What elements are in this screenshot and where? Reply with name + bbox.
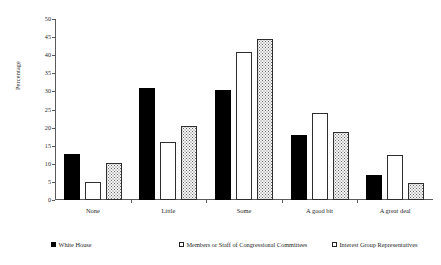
bar [181, 126, 197, 200]
bar-chart-figure: Percentage 05101520253035404550 NoneLitt… [0, 0, 441, 265]
y-tick-mark [52, 19, 55, 20]
x-category-label: A great deal [355, 207, 435, 214]
legend-item[interactable]: White House [51, 241, 92, 248]
legend-item[interactable]: Interest Group Representatives [332, 241, 418, 248]
bar [85, 182, 101, 200]
y-tick-mark [52, 200, 55, 201]
x-category-label: Little [128, 207, 208, 214]
y-tick-mark [52, 182, 55, 183]
x-category-label: A good bit [280, 207, 360, 214]
y-tick-mark [52, 73, 55, 74]
bar [291, 135, 307, 200]
bar-group [215, 19, 273, 200]
legend-label: Interest Group Representatives [340, 241, 418, 248]
bar-group [64, 19, 122, 200]
legend-item[interactable]: Members or Staff of Congressional Commit… [179, 241, 307, 248]
bar [257, 39, 273, 200]
y-tick-label: 10 [33, 161, 51, 167]
bar [160, 142, 176, 200]
chart-legend: White HouseMembers or Staff of Congressi… [51, 241, 437, 255]
bar-group [366, 19, 424, 200]
y-tick-label: 0 [33, 197, 51, 203]
legend-swatch-icon [332, 242, 337, 247]
x-category-label: Some [204, 207, 284, 214]
plot-area: 05101520253035404550 [55, 19, 433, 200]
y-axis-label: Percentage [14, 41, 21, 111]
bar-group [139, 19, 197, 200]
y-tick-mark [52, 91, 55, 92]
bar [106, 163, 122, 200]
y-tick-mark [52, 110, 55, 111]
y-tick-label: 35 [33, 70, 51, 76]
y-tick-label: 5 [33, 179, 51, 185]
bar [366, 175, 382, 200]
y-tick-mark [52, 164, 55, 165]
bar [139, 88, 155, 200]
bar [387, 155, 403, 200]
y-tick-mark [52, 37, 55, 38]
bar [215, 90, 231, 200]
x-category-label: None [53, 207, 133, 214]
bar [408, 183, 424, 200]
bar [236, 52, 252, 200]
y-tick-label: 30 [33, 88, 51, 94]
x-tick-mark [357, 200, 358, 203]
y-tick-label: 45 [33, 34, 51, 40]
y-tick-label: 20 [33, 124, 51, 130]
legend-label: Members or Staff of Congressional Commit… [187, 241, 308, 248]
legend-swatch-icon [51, 242, 56, 247]
y-tick-mark [52, 128, 55, 129]
y-tick-label: 15 [33, 143, 51, 149]
legend-swatch-icon [179, 242, 184, 247]
y-tick-label: 40 [33, 52, 51, 58]
y-tick-label: 25 [33, 106, 51, 112]
bar [64, 154, 80, 200]
legend-label: White House [59, 241, 92, 248]
y-tick-label: 50 [33, 16, 51, 22]
y-tick-mark [52, 55, 55, 56]
bar-group [291, 19, 349, 200]
x-tick-mark [206, 200, 207, 203]
x-tick-mark [131, 200, 132, 203]
y-tick-mark [52, 146, 55, 147]
y-axis-line [55, 19, 56, 200]
bar [312, 113, 328, 200]
bar [333, 132, 349, 200]
x-tick-mark [282, 200, 283, 203]
